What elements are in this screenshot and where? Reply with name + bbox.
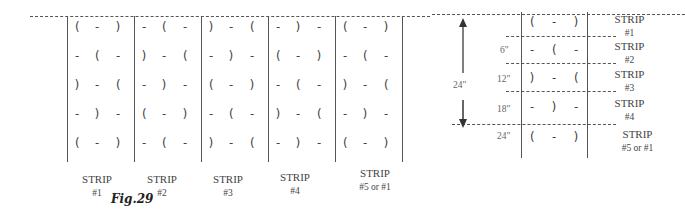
pattern-symbol: - (111, 49, 125, 63)
detail-strip-label-5: STRIP#5 or #1 (605, 127, 670, 155)
detail-pattern-symbol: - (547, 130, 561, 144)
pattern-symbol: ) (312, 49, 326, 63)
strip-divider (268, 16, 269, 162)
detail-pattern-symbol: - (547, 15, 561, 29)
pattern-symbol: ) (90, 107, 104, 121)
pattern-symbol: ( (90, 49, 104, 63)
detail-pattern-symbol: - (569, 43, 583, 57)
pattern-symbol: - (137, 78, 151, 92)
pattern-symbol: ) (245, 78, 259, 92)
pattern-symbol: - (204, 107, 218, 121)
pattern-symbol: - (358, 136, 372, 150)
pattern-symbol: - (224, 20, 238, 34)
row-divider-6 (506, 36, 616, 37)
strip-divider (67, 16, 68, 162)
pattern-symbol: - (358, 78, 372, 92)
detail-strip-label-4: STRIP#4 (602, 96, 657, 124)
top-dashed-line (30, 16, 430, 17)
detail-pattern-symbol: ( (569, 71, 583, 85)
measure-6: 6" (500, 45, 509, 55)
pattern-symbol: ) (111, 20, 125, 34)
detail-pattern-symbol: - (525, 43, 539, 57)
pattern-symbol: ( (338, 136, 352, 150)
detail-pattern-symbol: ( (525, 130, 539, 144)
pattern-symbol: - (379, 49, 393, 63)
pattern-symbol: ) (291, 136, 305, 150)
strip-label-5: STRIP#5 or #1 (340, 166, 410, 194)
pattern-symbol: ( (358, 49, 372, 63)
detail-divider-right (587, 12, 588, 158)
pattern-symbol: ( (291, 78, 305, 92)
measure-18: 18" (497, 104, 510, 114)
pattern-symbol: ( (70, 136, 84, 150)
pattern-symbol: ) (291, 20, 305, 34)
detail-strip-label-2: STRIP#2 (602, 39, 657, 67)
pattern-symbol: ( (245, 20, 259, 34)
pattern-symbol: - (224, 78, 238, 92)
pattern-symbol: - (90, 20, 104, 34)
pattern-symbol: ) (379, 20, 393, 34)
strip-divider (402, 16, 403, 162)
pattern-symbol: ( (70, 20, 84, 34)
pattern-symbol: ( (157, 136, 171, 150)
pattern-symbol: - (111, 107, 125, 121)
pattern-symbol: - (271, 78, 285, 92)
pattern-symbol: - (338, 107, 352, 121)
pattern-symbol: - (271, 136, 285, 150)
pattern-symbol: ( (178, 49, 192, 63)
pattern-symbol: - (157, 107, 171, 121)
pattern-symbol: ) (358, 107, 372, 121)
pattern-symbol: - (379, 107, 393, 121)
pattern-symbol: - (271, 20, 285, 34)
measure-24: 24" (497, 131, 510, 141)
measure-12: 12" (497, 74, 510, 84)
pattern-symbol: ( (338, 20, 352, 34)
pattern-symbol: ) (137, 49, 151, 63)
detail-pattern-symbol: ) (569, 130, 583, 144)
pattern-symbol: - (312, 78, 326, 92)
pattern-symbol: - (90, 136, 104, 150)
pattern-symbol: - (137, 136, 151, 150)
pattern-symbol: ( (204, 78, 218, 92)
span-arrow-icon (456, 18, 470, 130)
pattern-symbol: ( (157, 20, 171, 34)
pattern-symbol: - (245, 107, 259, 121)
pattern-symbol: ( (312, 107, 326, 121)
pattern-symbol: - (137, 20, 151, 34)
pattern-symbol: - (204, 49, 218, 63)
detail-strip-label-3: STRIP#3 (602, 67, 657, 95)
detail-pattern-symbol: ( (547, 43, 561, 57)
detail-pattern-symbol: ) (547, 100, 561, 114)
pattern-symbol: ) (271, 107, 285, 121)
pattern-symbol: - (178, 136, 192, 150)
pattern-symbol: - (358, 20, 372, 34)
pattern-symbol: ) (224, 49, 238, 63)
pattern-symbol: - (312, 136, 326, 150)
pattern-symbol: - (224, 136, 238, 150)
pattern-symbol: - (312, 20, 326, 34)
pattern-symbol: ( (379, 78, 393, 92)
detail-pattern-symbol: ( (525, 15, 539, 29)
pattern-symbol: ) (338, 78, 352, 92)
detail-pattern-symbol: - (547, 71, 561, 85)
pattern-symbol: - (70, 49, 84, 63)
pattern-symbol: ) (70, 78, 84, 92)
row-divider-18 (506, 91, 616, 92)
pattern-symbol: - (245, 49, 259, 63)
span-label: 24" (453, 80, 466, 90)
strip-label-4: STRIP#4 (270, 170, 320, 198)
pattern-symbol: ) (379, 136, 393, 150)
pattern-symbol: ) (204, 20, 218, 34)
pattern-symbol: ) (204, 136, 218, 150)
pattern-symbol: ( (245, 136, 259, 150)
pattern-symbol: ( (137, 107, 151, 121)
pattern-symbol: - (338, 49, 352, 63)
detail-strip-label-1: STRIP#1 (602, 12, 657, 40)
row-divider-24 (452, 124, 616, 125)
pattern-symbol: ( (271, 49, 285, 63)
detail-pattern-symbol: ) (569, 15, 583, 29)
detail-pattern-symbol: ) (525, 71, 539, 85)
pattern-symbol: ) (157, 78, 171, 92)
pattern-symbol: - (291, 107, 305, 121)
strip-divider (134, 16, 135, 162)
